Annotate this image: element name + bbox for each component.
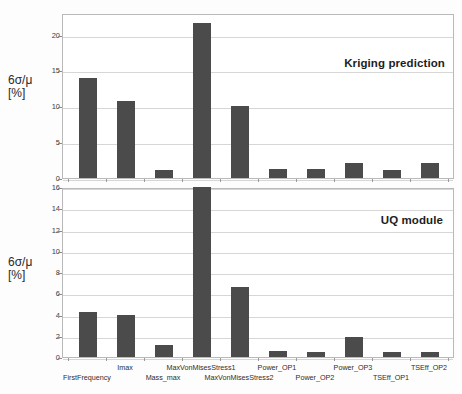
bar [231,106,248,178]
x-axis-tick-mark [258,358,259,361]
bar [79,78,96,178]
bar [383,170,400,178]
x-axis-category-label: Power_OP3 [334,364,373,372]
x-axis-tick-mark [296,179,297,182]
x-axis-category-label: FirstFrequency [63,374,111,382]
bar [79,312,96,357]
bar [269,351,286,357]
x-axis-category-label: TSEff_OP2 [411,364,447,372]
bar [307,169,324,178]
y-axis-tick-mark [58,294,62,295]
chart-panel-kriging-prediction: Kriging prediction 05101520 [62,14,454,179]
x-axis-tick-mark [410,179,411,182]
y-axis-tick-mark [58,209,62,210]
x-axis-tick-mark [448,179,449,182]
x-axis-tick-mark [334,358,335,361]
bar [345,337,362,357]
y-axis-tick-mark [58,231,62,232]
x-axis-tick-mark [372,179,373,182]
x-axis-tick-mark [68,358,69,361]
chart-panel-uq-module: UQ module 0246810121416 [62,188,454,358]
bar [117,101,134,178]
panel-annotation-uq-module: UQ module [381,214,443,226]
bar [155,345,172,357]
x-axis-category-label: TSEff_OP1 [373,374,409,382]
y-axis-tick-mark [58,316,62,317]
x-axis-tick-mark [258,179,259,182]
x-axis-tick-mark [410,358,411,361]
x-axis-tick-mark [182,358,183,361]
x-axis-ticks-kriging-prediction [62,179,454,183]
x-axis-tick-mark [334,179,335,182]
y-axis-title-top-line2: [%] [8,87,32,100]
bar [193,187,210,357]
x-axis-tick-mark [220,358,221,361]
panel-annotation-kriging-prediction: Kriging prediction [344,57,445,69]
x-axis-tick-mark [220,179,221,182]
x-axis-tick-mark [296,358,297,361]
y-axis-tick-mark [58,337,62,338]
x-axis-tick-mark [144,179,145,182]
x-axis-category-label: Power_OP1 [258,364,297,372]
x-axis-category-label: Mass_max [146,374,181,382]
bar-series-kriging-prediction [63,15,453,178]
x-axis-category-label: MaxVonMisesStress2 [204,374,273,382]
x-axis-category-label: MaxVonMisesStress1 [166,364,235,372]
x-axis-tick-mark [144,358,145,361]
y-axis-tick-mark [58,71,62,72]
x-axis-tick-mark [106,179,107,182]
y-axis-tick-mark [58,273,62,274]
bar [117,315,134,358]
bar [421,163,438,178]
y-axis-title-bottom: 6σ/μ [%] [8,256,32,282]
bar [307,352,324,357]
x-axis-tick-mark [448,358,449,361]
x-axis-category-label: Imax [117,364,133,372]
bar [383,352,400,357]
x-axis-tick-mark [182,179,183,182]
x-axis-tick-mark [68,179,69,182]
bar [269,169,286,178]
y-axis-tick-mark [58,107,62,108]
bar [155,170,172,178]
bar [231,287,248,357]
y-axis-tick-mark [58,252,62,253]
y-axis-title-bottom-line2: [%] [8,269,32,282]
x-axis-category-label: Power_OP2 [296,374,335,382]
y-axis-tick-mark [58,36,62,37]
plot-area-kriging-prediction: Kriging prediction [62,14,454,179]
figure-two-panel-bar-chart: 6σ/μ [%] 6σ/μ [%] Kriging prediction 051… [0,0,462,394]
plot-area-uq-module: UQ module [62,188,454,358]
y-axis-tick-mark [58,143,62,144]
x-axis-tick-mark [106,358,107,361]
bar [421,352,438,357]
y-axis-title-top: 6σ/μ [%] [8,74,32,100]
bar [345,163,362,178]
bar [193,23,210,178]
y-axis-tick-mark [58,188,62,189]
x-axis-tick-mark [372,358,373,361]
x-axis-ticks-uq-module [62,358,454,362]
